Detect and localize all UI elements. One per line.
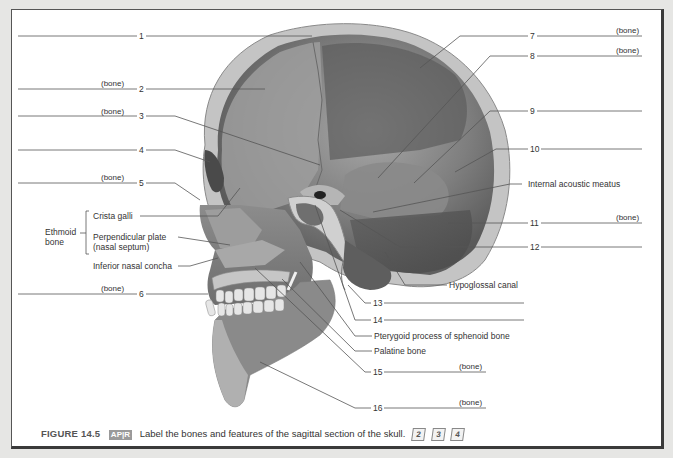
label-6-hint: (bone) xyxy=(101,284,124,293)
ethmoid-group-label: Ethmoid xyxy=(45,227,76,237)
label-1-number: 1 xyxy=(137,31,146,41)
label-7-number: 7 xyxy=(528,31,537,41)
label-4-number: 4 xyxy=(137,145,146,155)
label-5-number: 5 xyxy=(137,178,146,188)
label-6-number: 6 xyxy=(137,289,146,299)
label-7-hint: (bone) xyxy=(616,26,639,35)
label-8-hint: (bone) xyxy=(616,46,639,55)
pterygoid-process-label: Pterygoid process of sphenoid bone xyxy=(374,331,510,341)
nasal-septum-label: (nasal septum) xyxy=(93,242,149,252)
label-16-number: 16 xyxy=(371,403,384,413)
apr-badge-icon: AP|R xyxy=(109,430,132,440)
perpendicular-plate-label: Perpendicular plate xyxy=(93,232,168,242)
internal-acoustic-meatus-label: Internal acoustic meatus xyxy=(528,179,620,189)
label-14-number: 14 xyxy=(371,315,384,325)
label-3-hint: (bone) xyxy=(101,107,124,116)
label-15-number: 15 xyxy=(371,367,384,377)
ethmoid-group-label-2: bone xyxy=(45,237,64,247)
inferior-nasal-concha-label: Inferior nasal concha xyxy=(93,261,174,271)
caption-text: Label the bones and features of the sagi… xyxy=(140,428,406,439)
level-2-icon: 2 xyxy=(411,428,426,441)
label-16-hint: (bone) xyxy=(459,398,482,407)
label-13-number: 13 xyxy=(371,298,384,308)
figure-number: FIGURE 14.5 xyxy=(41,428,100,439)
crista-galli-label: Crista galli xyxy=(93,211,135,221)
label-2-number: 2 xyxy=(137,84,146,94)
level-4-icon: 4 xyxy=(450,428,465,441)
figure-caption: FIGURE 14.5 AP|R Label the bones and fea… xyxy=(41,428,464,441)
label-15-hint: (bone) xyxy=(459,362,482,371)
label-10-number: 10 xyxy=(528,144,541,154)
label-12-number: 12 xyxy=(528,242,541,252)
hypoglossal-canal-label: Hypoglossal canal xyxy=(449,280,518,290)
skull-illustration xyxy=(0,0,673,458)
label-11-hint: (bone) xyxy=(616,213,639,222)
label-11-number: 11 xyxy=(528,218,541,228)
label-8-number: 8 xyxy=(528,51,537,61)
level-3-icon: 3 xyxy=(431,428,446,441)
label-9-number: 9 xyxy=(528,106,537,116)
label-2-hint: (bone) xyxy=(101,79,124,88)
label-5-hint: (bone) xyxy=(101,173,124,182)
palatine-bone-label: Palatine bone xyxy=(374,346,426,356)
label-3-number: 3 xyxy=(137,111,146,121)
